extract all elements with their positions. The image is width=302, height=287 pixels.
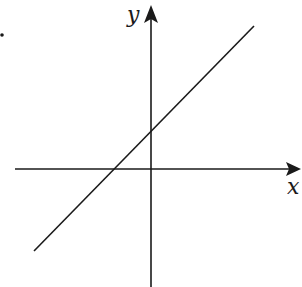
x-axis-label: x xyxy=(287,174,300,199)
bullet-dot xyxy=(0,33,4,37)
graph-line xyxy=(34,26,254,251)
y-axis-label: y xyxy=(126,2,140,27)
coordinate-diagram: y x xyxy=(0,0,302,287)
